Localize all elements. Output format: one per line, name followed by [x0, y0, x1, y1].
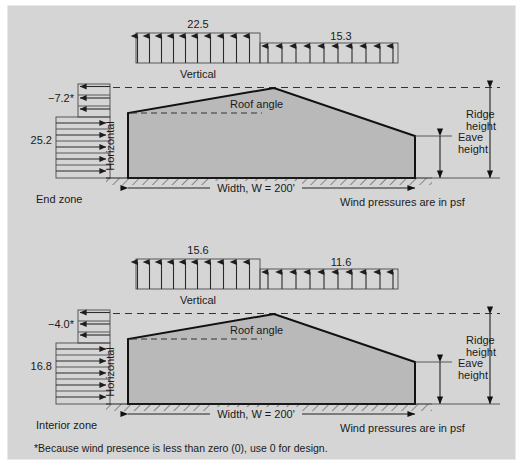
vertical-pressure-left-block	[136, 33, 260, 63]
vertical-pressure-right-block	[260, 43, 398, 63]
horizontal-pressure-lower-block-2	[56, 343, 110, 404]
vertical-pressure-right-value: 15.3	[330, 30, 351, 42]
ridge-height-label-line1: Ridge	[466, 108, 495, 120]
horizontal-pressure-upper-value: −7.2*	[48, 92, 75, 104]
roof-angle-label-2: Roof angle	[230, 324, 283, 336]
horizontal-pressure-upper-value-2: −4.0*	[48, 318, 75, 330]
ridge-height-label-2-line2: height	[466, 346, 496, 358]
eave-height-label-2-line2: height	[458, 369, 488, 381]
eave-height-dimension-2	[415, 362, 452, 404]
eave-height-label-2-line1: Eave	[458, 357, 483, 369]
eave-height-label-line2: height	[458, 143, 488, 155]
eave-height-label-line1: Eave	[458, 131, 483, 143]
zone-label-end-zone: End zone	[36, 193, 82, 205]
vertical-pressure-left-value-2: 15.6	[187, 244, 208, 256]
vertical-pressure-right-block-2	[260, 269, 398, 289]
diagram-interior-zone: 15.6 11.6 Vertical	[31, 244, 500, 434]
width-label: Width, W = 200'	[217, 182, 295, 194]
ridge-height-label-2-line1: Ridge	[466, 334, 495, 346]
width-label-2: Width, W = 200'	[217, 408, 295, 420]
horizontal-label-2: Horizontal	[104, 347, 116, 397]
horizontal-pressure-upper-block-2	[78, 310, 110, 343]
footnote: *Because wind presence is less than zero…	[34, 442, 328, 454]
vertical-pressure-left-value: 22.5	[187, 18, 208, 30]
figure-root: 22.5 15.3 Vertical	[0, 0, 523, 467]
horizontal-label: Horizontal	[104, 121, 116, 171]
wind-pressure-diagram: 22.5 15.3 Vertical	[0, 0, 523, 467]
roof-angle-label: Roof angle	[230, 98, 283, 110]
units-note-end-zone: Wind pressures are in psf	[340, 196, 466, 208]
horizontal-pressure-upper-block	[78, 84, 110, 117]
ridge-height-label-line2: height	[466, 120, 496, 132]
horizontal-pressure-lower-block	[56, 117, 110, 178]
diagram-end-zone: 22.5 15.3 Vertical	[31, 18, 500, 208]
units-note-interior-zone: Wind pressures are in psf	[340, 422, 466, 434]
vertical-pressure-right-value-2: 11.6	[331, 256, 352, 268]
horizontal-pressure-lower-value: 25.2	[31, 134, 52, 146]
vertical-label-2: Vertical	[180, 294, 216, 306]
eave-height-dimension	[415, 136, 452, 178]
zone-label-interior-zone: Interior zone	[36, 419, 97, 431]
vertical-pressure-left-block-2	[136, 259, 260, 289]
vertical-label: Vertical	[180, 68, 216, 80]
horizontal-pressure-lower-value-2: 16.8	[31, 360, 52, 372]
